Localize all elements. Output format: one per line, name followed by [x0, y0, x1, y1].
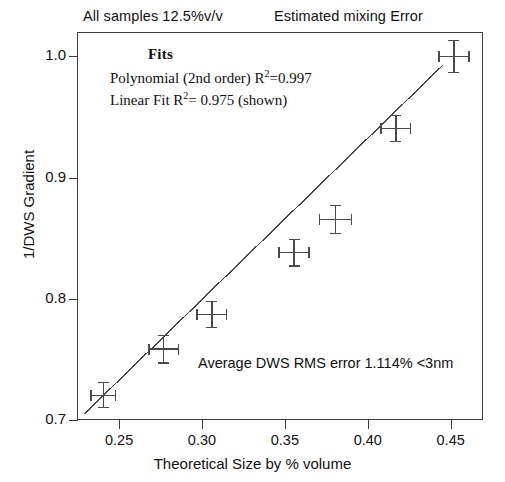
- x-tick-label: 0.45: [437, 432, 465, 448]
- fits-title: Fits: [148, 46, 312, 63]
- caption-left: All samples 12.5%v/v: [83, 8, 223, 24]
- x-tick: [202, 420, 203, 429]
- linear-fit-prefix: Linear Fit R: [110, 92, 183, 108]
- y-tick-label: 1.0: [24, 46, 66, 63]
- linear-fit-text: Linear Fit R2= 0.975 (shown): [110, 90, 312, 112]
- x-tick-label: 0.30: [188, 432, 216, 448]
- caption-right: Estimated mixing Error: [274, 8, 423, 24]
- y-axis-label: 1/DWS Gradient: [20, 120, 37, 290]
- x-tick-label: 0.25: [105, 432, 133, 448]
- polynomial-fit-value: =0.997: [270, 70, 312, 86]
- x-axis-label: Theoretical Size by % volume: [0, 455, 505, 472]
- data-point-errorbar: [381, 115, 411, 142]
- linear-fit-value: = 0.975 (shown): [188, 92, 287, 108]
- fits-legend-block: Fits Polynomial (2nd order) R2=0.997 Lin…: [110, 46, 312, 112]
- y-tick: [69, 420, 78, 421]
- polynomial-fit-text: Polynomial (2nd order) R2=0.997: [110, 68, 312, 90]
- y-tick-label: 0.7: [24, 410, 66, 427]
- x-tick-label: 0.40: [354, 432, 382, 448]
- x-tick-label: 0.35: [271, 432, 299, 448]
- rms-error-note: Average DWS RMS error 1.114% <3nm: [198, 355, 453, 371]
- x-tick: [451, 420, 452, 429]
- data-point-errorbar: [439, 41, 469, 73]
- data-point-errorbar: [197, 302, 227, 327]
- chart-figure: All samples 12.5%v/v Estimated mixing Er…: [0, 0, 505, 482]
- y-tick-label: 0.8: [24, 289, 66, 306]
- data-point-errorbar: [279, 239, 309, 266]
- x-tick: [285, 420, 286, 429]
- polynomial-fit-prefix: Polynomial (2nd order) R: [110, 70, 265, 86]
- data-point-errorbar: [149, 335, 179, 363]
- x-tick: [368, 420, 369, 429]
- x-tick: [119, 420, 120, 429]
- data-point-errorbar: [320, 205, 351, 233]
